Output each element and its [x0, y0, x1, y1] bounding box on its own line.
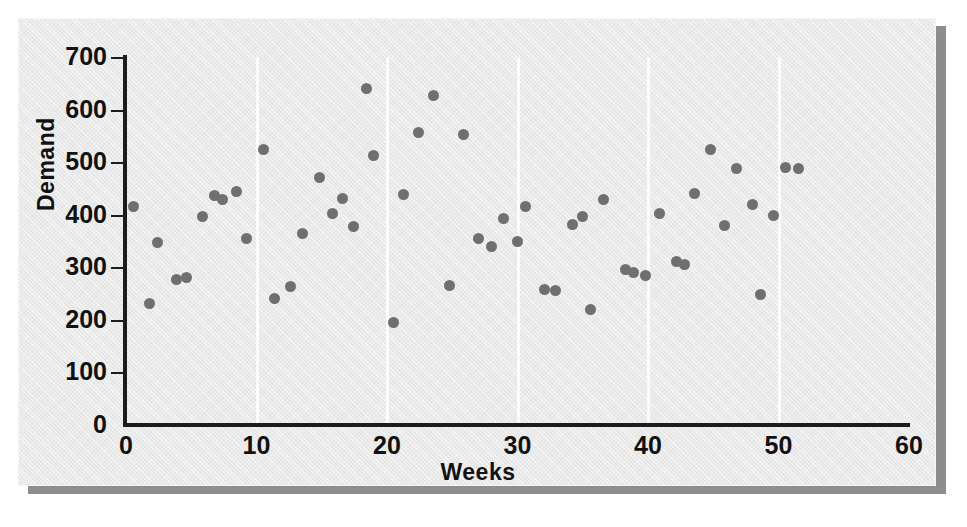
data-point: [567, 219, 578, 230]
data-point: [297, 228, 308, 239]
data-point: [285, 281, 296, 292]
data-point: [413, 127, 424, 138]
data-point: [486, 241, 497, 252]
x-tick-label-wrap: 60: [869, 433, 949, 458]
y-tick-label-wrap: 300: [19, 254, 107, 280]
data-point: [181, 272, 192, 283]
data-point: [768, 210, 779, 221]
data-point: [361, 83, 372, 94]
y-tick-100: [111, 372, 124, 374]
data-point: [598, 194, 609, 205]
data-point: [458, 129, 469, 140]
data-point: [269, 293, 280, 304]
y-tick-700: [111, 57, 124, 59]
data-point: [577, 211, 588, 222]
data-point: [398, 189, 409, 200]
x-tick-label: 0: [86, 433, 166, 458]
x-tick-label-wrap: 20: [347, 433, 427, 458]
data-point: [640, 270, 651, 281]
x-tick-label: 10: [217, 433, 297, 458]
x-axis-title: Weeks: [19, 459, 937, 486]
data-point: [719, 220, 730, 231]
data-point: [231, 186, 242, 197]
data-point: [747, 199, 758, 210]
data-point: [731, 163, 742, 174]
data-point: [628, 267, 639, 278]
y-tick-200: [111, 320, 124, 322]
data-point: [550, 285, 561, 296]
x-axis-line: [123, 423, 910, 427]
data-point: [520, 201, 531, 212]
data-point: [314, 172, 325, 183]
data-point: [152, 237, 163, 248]
data-point: [368, 150, 379, 161]
data-point: [780, 162, 791, 173]
x-tick-label: 50: [739, 433, 819, 458]
data-point: [705, 144, 716, 155]
y-tick-label-wrap: 200: [19, 307, 107, 333]
data-point: [444, 280, 455, 291]
x-tick-label-wrap: 10: [217, 433, 297, 458]
y-tick-label: 100: [33, 359, 107, 384]
x-tick-label-wrap: 40: [608, 433, 688, 458]
y-tick-label-wrap: 100: [19, 359, 107, 385]
y-tick-label: 700: [33, 44, 107, 69]
y-tick-label: 300: [33, 254, 107, 279]
chart-panel: 0100200300400500600700 0102030405060 Dem…: [18, 18, 936, 486]
plot-area: [126, 57, 909, 425]
x-tick-label-wrap: 30: [478, 433, 558, 458]
data-point: [539, 284, 550, 295]
data-point: [144, 298, 155, 309]
data-point: [241, 233, 252, 244]
x-tick-label: 40: [608, 433, 688, 458]
data-point: [197, 211, 208, 222]
data-point: [498, 213, 509, 224]
data-point: [793, 163, 804, 174]
data-point: [258, 144, 269, 155]
data-point: [654, 208, 665, 219]
x-tick-label-wrap: 50: [739, 433, 819, 458]
y-tick-600: [111, 110, 124, 112]
data-point: [512, 236, 523, 247]
y-tick-label: 200: [33, 307, 107, 332]
y-axis-title: Demand: [33, 117, 60, 211]
y-tick-400: [111, 215, 124, 217]
y-tick-300: [111, 267, 124, 269]
data-point: [428, 90, 439, 101]
data-point: [388, 317, 399, 328]
data-point: [128, 201, 139, 212]
y-tick-label-wrap: 700: [19, 44, 107, 70]
data-point: [755, 289, 766, 300]
figure-root: 0100200300400500600700 0102030405060 Dem…: [0, 0, 967, 527]
data-point: [348, 221, 359, 232]
data-point: [473, 233, 484, 244]
data-point: [327, 208, 338, 219]
x-tick-label-wrap: 0: [86, 433, 166, 458]
data-point: [337, 193, 348, 204]
data-point: [679, 259, 690, 270]
data-point: [585, 304, 596, 315]
y-tick-500: [111, 162, 124, 164]
data-point: [689, 188, 700, 199]
x-tick-label: 20: [347, 433, 427, 458]
x-tick-label: 30: [478, 433, 558, 458]
data-point: [217, 194, 228, 205]
x-tick-label: 60: [869, 433, 949, 458]
